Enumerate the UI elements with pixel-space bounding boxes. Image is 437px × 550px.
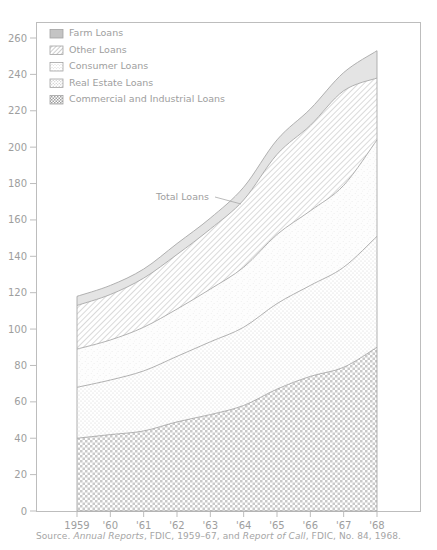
legend-item: Real Estate Loans <box>50 77 153 88</box>
y-tick-label: 200 <box>8 142 27 153</box>
legend-item: Consumer Loans <box>50 60 148 71</box>
source-italic-annual-reports: Annual Reports <box>73 531 143 541</box>
source-caption: Source. Annual Reports, FDIC, 1959–67, a… <box>0 531 437 541</box>
x-axis-labels: 1959'60'61'62'63'64'65'66'67'68 <box>64 520 384 531</box>
total-loans-label: Total Loans <box>155 191 209 202</box>
legend-item: Commercial and Industrial Loans <box>50 93 225 104</box>
y-tick-label: 80 <box>14 360 27 371</box>
loans-area-chart-figure: 020406080100120140160180200220240260 195… <box>0 0 437 550</box>
y-tick-label: 100 <box>8 324 27 335</box>
y-tick-label: 0 <box>21 506 27 517</box>
x-tick-label: '62 <box>169 520 184 531</box>
legend-item: Other Loans <box>50 44 127 55</box>
x-tick-label: '65 <box>269 520 284 531</box>
y-tick-label: 220 <box>8 105 27 116</box>
y-tick-label: 20 <box>14 469 27 480</box>
x-axis-ticks <box>77 512 377 518</box>
y-tick-label: 240 <box>8 69 27 80</box>
y-tick-label: 140 <box>8 251 27 262</box>
y-axis-labels: 020406080100120140160180200220240260 <box>8 33 27 517</box>
x-tick-label: '64 <box>236 520 251 531</box>
legend-label: Consumer Loans <box>69 60 148 71</box>
legend-label: Real Estate Loans <box>69 77 153 88</box>
source-prefix: Source. <box>36 531 70 541</box>
x-tick-label: '68 <box>369 520 384 531</box>
total-loans-annotation: Total Loans <box>155 191 241 204</box>
y-tick-label: 40 <box>14 433 27 444</box>
y-tick-label: 180 <box>8 178 27 189</box>
source-suffix: , FDIC, No. 84, 1968. <box>306 531 401 541</box>
source-mid: , FDIC, 1959–67, and <box>144 531 240 541</box>
swatch-consumer <box>50 63 63 72</box>
x-tick-label: '67 <box>336 520 351 531</box>
x-tick-label: '61 <box>136 520 151 531</box>
swatch-commercial <box>50 96 63 105</box>
x-tick-label: '60 <box>103 520 118 531</box>
y-tick-label: 160 <box>8 214 27 225</box>
chart-svg: 020406080100120140160180200220240260 195… <box>0 0 437 550</box>
legend-label: Other Loans <box>69 44 127 55</box>
swatch-farm <box>50 30 63 39</box>
x-tick-label: '66 <box>303 520 318 531</box>
y-tick-label: 60 <box>14 396 27 407</box>
source-italic-report-of-call: Report of Call <box>243 531 306 541</box>
legend-item: Farm Loans <box>50 27 123 38</box>
swatch-real-estate <box>50 79 63 88</box>
legend-label: Commercial and Industrial Loans <box>69 93 225 104</box>
y-axis-ticks <box>30 38 37 511</box>
swatch-other <box>50 46 63 55</box>
y-tick-label: 120 <box>8 287 27 298</box>
chart-legend: Farm LoansOther LoansConsumer LoansReal … <box>50 27 225 104</box>
y-tick-label: 260 <box>8 33 27 44</box>
x-tick-label: 1959 <box>64 520 89 531</box>
x-tick-label: '63 <box>203 520 218 531</box>
legend-label: Farm Loans <box>69 27 123 38</box>
